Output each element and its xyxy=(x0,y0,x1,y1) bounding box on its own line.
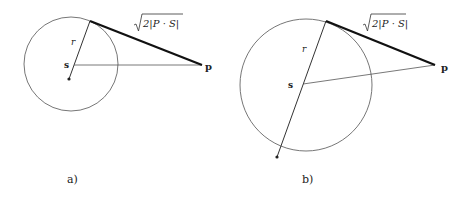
radius-label-a: r xyxy=(71,37,76,47)
radius-label-b: r xyxy=(302,44,307,54)
center-label-b: s xyxy=(288,80,293,90)
center-to-point-line-b xyxy=(303,65,435,84)
panel-caption-a: a) xyxy=(67,173,78,186)
panel-a: r s p 2|P · S| a) xyxy=(24,14,212,186)
radius-line-b xyxy=(277,21,326,157)
sphere-circle-b xyxy=(240,19,372,151)
tangent-length-label-a: 2|P · S| xyxy=(134,14,183,31)
panel-caption-b: b) xyxy=(302,173,313,186)
radius-end-dot-b xyxy=(275,155,278,158)
sqrt-argument-a: 2|P · S| xyxy=(142,18,179,30)
panel-b: r s p 2|P · S| b) xyxy=(240,14,448,186)
point-label-b: p xyxy=(441,62,448,73)
radius-end-dot-a xyxy=(67,77,70,80)
sphere-circle-a xyxy=(24,17,118,111)
center-label-a: s xyxy=(64,60,69,70)
radius-line-a xyxy=(69,21,90,79)
point-label-a: p xyxy=(205,61,212,72)
tangent-length-label-b: 2|P · S| xyxy=(363,14,408,31)
figure-canvas: r s p 2|P · S| a) r s p 2|P · S| b) xyxy=(0,0,467,197)
sqrt-argument-b: 2|P · S| xyxy=(371,18,408,30)
